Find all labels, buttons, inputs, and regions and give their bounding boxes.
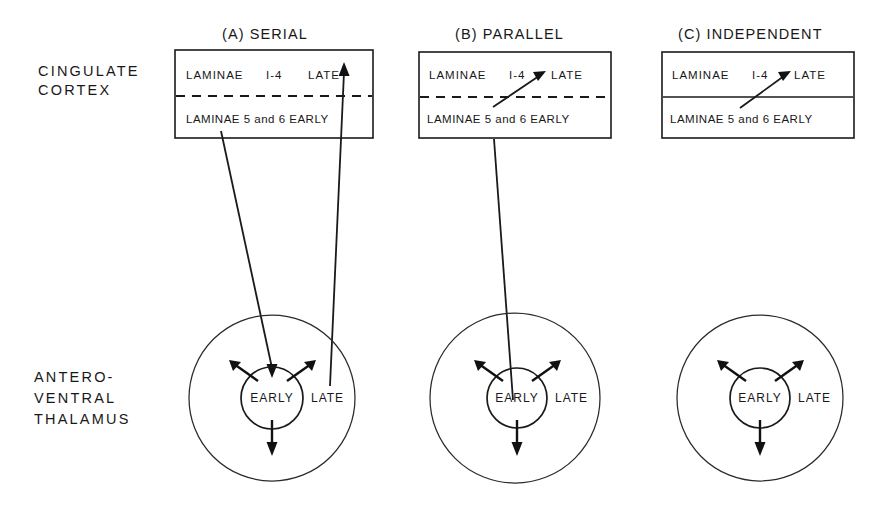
- panel-independent-radiating-arrows: [717, 360, 804, 456]
- panel-independent-upper-timing: LATE: [794, 69, 826, 81]
- panel-serial-upper-laminae-range: I-4: [266, 69, 282, 81]
- panel-serial-connection-thalamus-to-cortex: [330, 62, 350, 386]
- anteroventral-thalamus-line-3: THALAMUS: [34, 411, 131, 427]
- cingulate-cortex-line-2: CORTEX: [38, 82, 111, 98]
- panel-parallel: (B) PARALLEL LAMINAE I-4 LATE LAMINAE 5 …: [419, 26, 611, 483]
- panel-parallel-upper-timing: LATE: [551, 69, 583, 81]
- panel-independent: (C) INDEPENDENT LAMINAE I-4 LATE LAMINAE…: [662, 26, 854, 481]
- anteroventral-thalamus-line-2: VENTRAL: [34, 390, 116, 406]
- panel-serial-lower-row-text: LAMINAE 5 and 6 EARLY: [186, 113, 329, 125]
- panel-serial-upper-timing: LATE: [308, 69, 340, 81]
- panel-serial-thalamus-outer-label: LATE: [311, 391, 344, 405]
- panel-independent-upper-laminae-range: I-4: [752, 69, 768, 81]
- panel-parallel-upper-laminae-range: I-4: [509, 69, 525, 81]
- anteroventral-thalamus-line-1: ANTERO-: [34, 369, 115, 385]
- panel-independent-thalamus-outer-label: LATE: [798, 391, 831, 405]
- panel-parallel-thalamus-outer-label: LATE: [555, 391, 588, 405]
- cingulate-cortex-line-1: CINGULATE: [38, 63, 140, 79]
- panel-parallel-thalamus-inner-label: EARLY: [495, 391, 538, 405]
- panel-serial-connection-cortex-to-thalamus: [221, 131, 278, 378]
- row-label-cingulate-cortex: CINGULATE CORTEX: [38, 63, 140, 98]
- panel-parallel-title: (B) PARALLEL: [455, 26, 564, 42]
- row-label-anteroventral-thalamus: ANTERO- VENTRAL THALAMUS: [34, 369, 131, 427]
- panel-parallel-upper-laminae-label: LAMINAE: [429, 69, 487, 81]
- figure-root: CINGULATE CORTEX ANTERO- VENTRAL THALAMU…: [0, 0, 888, 513]
- panel-independent-lower-row-text: LAMINAE 5 and 6 EARLY: [670, 113, 813, 125]
- panel-parallel-radiating-arrows: [474, 360, 561, 456]
- panel-serial-title: (A) SERIAL: [222, 26, 308, 42]
- panel-parallel-connection-thalamus-to-cortex: [494, 139, 513, 400]
- panel-serial-upper-laminae-label: LAMINAE: [186, 69, 244, 81]
- cortex-thalamus-diagram: CINGULATE CORTEX ANTERO- VENTRAL THALAMU…: [0, 0, 888, 513]
- panel-parallel-cortex-box: [419, 52, 611, 138]
- panel-independent-title: (C) INDEPENDENT: [678, 26, 823, 42]
- panel-serial: (A) SERIAL LAMINAE I-4 LATE LAMINAE 5 an…: [175, 26, 373, 481]
- panel-independent-thalamus-inner-label: EARLY: [738, 391, 781, 405]
- panel-independent-upper-laminae-label: LAMINAE: [672, 69, 730, 81]
- panel-serial-thalamus-inner-label: EARLY: [250, 391, 293, 405]
- panel-parallel-lower-row-text: LAMINAE 5 and 6 EARLY: [427, 113, 570, 125]
